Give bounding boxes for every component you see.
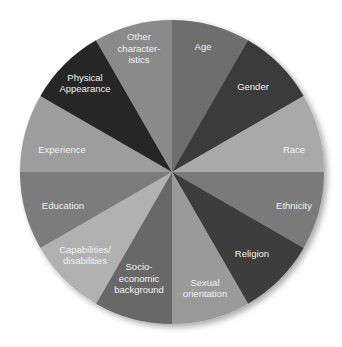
pie-slices	[20, 20, 324, 324]
slice-label: Education	[42, 200, 84, 211]
diversity-pie-chart: AgeGenderRaceEthnicityReligionSexualorie…	[0, 0, 342, 347]
slice-label: Gender	[237, 81, 269, 92]
slice-label: Religion	[235, 248, 269, 259]
slice-label: Ethnicity	[276, 200, 312, 211]
slice-label: Experience	[38, 144, 86, 155]
slice-label: Race	[283, 144, 305, 155]
slice-label: Capabilities/disabilities	[59, 244, 111, 266]
slice-label: Age	[195, 41, 212, 52]
